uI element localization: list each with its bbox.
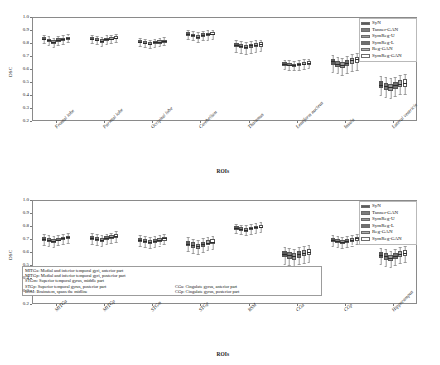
box-plot	[345, 183, 349, 365]
cap-lower	[336, 247, 339, 248]
median-line	[186, 244, 190, 245]
cap-upper	[336, 236, 339, 237]
cap-upper	[245, 42, 248, 43]
median-line	[196, 37, 200, 38]
cap-lower	[153, 247, 156, 248]
cap-lower	[331, 246, 334, 247]
cap-lower	[298, 264, 301, 265]
cap-upper	[389, 251, 392, 252]
cap-lower	[43, 245, 46, 246]
box-plot	[403, 183, 407, 365]
cap-upper	[202, 31, 205, 32]
cap-upper	[379, 248, 382, 249]
median-line	[186, 34, 190, 35]
box-plot	[297, 0, 301, 182]
cap-upper	[52, 38, 55, 39]
median-line	[355, 238, 359, 239]
y-axis-tick-mark	[30, 30, 32, 31]
cap-lower	[307, 262, 310, 263]
cap-lower	[105, 244, 108, 245]
box-plot	[114, 0, 118, 182]
median-line	[393, 85, 397, 86]
cap-lower	[144, 247, 147, 248]
cap-lower	[307, 68, 310, 69]
box-plot	[297, 183, 301, 365]
cap-lower	[206, 250, 209, 251]
box-plot	[259, 183, 263, 365]
median-line	[307, 252, 311, 253]
median-line	[157, 42, 161, 43]
x-axis-label-bottom: ROIs	[217, 351, 230, 357]
box-plot	[138, 0, 142, 182]
cap-upper	[399, 75, 402, 76]
cap-lower	[139, 246, 142, 247]
box-plot	[355, 0, 359, 182]
cap-lower	[283, 69, 286, 70]
cap-lower	[100, 46, 103, 47]
y-axis-tick-label: 0.9	[14, 210, 29, 215]
median-line	[249, 228, 253, 229]
box-plot	[100, 183, 104, 365]
box-plot	[249, 0, 253, 182]
cap-upper	[240, 41, 243, 42]
cap-upper	[293, 249, 296, 250]
median-line	[148, 44, 152, 45]
whisker-lower	[390, 91, 391, 98]
cap-upper	[67, 233, 70, 234]
box-plot	[201, 183, 205, 365]
cap-upper	[206, 30, 209, 31]
whisker-lower	[395, 89, 396, 96]
median-line	[109, 39, 113, 40]
median-line	[345, 241, 349, 242]
box-plot	[234, 0, 238, 182]
cap-lower	[96, 44, 99, 45]
median-line	[244, 47, 248, 48]
cap-upper	[351, 235, 354, 236]
box-plot	[335, 0, 339, 182]
cap-lower	[96, 245, 99, 246]
median-line	[47, 40, 51, 41]
legend-swatch	[361, 211, 370, 215]
y-axis-tick-mark	[30, 265, 32, 266]
cap-upper	[404, 246, 407, 247]
box-plot	[307, 0, 311, 182]
cap-upper	[149, 40, 152, 41]
box-plot	[51, 183, 55, 365]
cap-upper	[379, 76, 382, 77]
median-line	[138, 240, 142, 241]
box-plot	[143, 183, 147, 365]
box-plot	[388, 0, 392, 182]
box-plot	[61, 0, 65, 182]
legend-swatch	[361, 41, 370, 45]
cap-lower	[43, 43, 46, 44]
box-plot	[239, 183, 243, 365]
y-axis-tick-mark	[30, 239, 32, 240]
cap-lower	[192, 40, 195, 41]
box-plot	[388, 183, 392, 365]
box-plot	[148, 0, 152, 182]
cap-lower	[298, 70, 301, 71]
cap-upper	[57, 235, 60, 236]
cap-lower	[105, 44, 108, 45]
cap-upper	[303, 246, 306, 247]
cap-lower	[211, 39, 214, 40]
whisker-lower	[357, 63, 358, 70]
cap-lower	[384, 97, 387, 98]
cap-lower	[144, 47, 147, 48]
legend-swatch	[361, 22, 370, 26]
box-plot	[282, 0, 286, 182]
cap-upper	[62, 35, 65, 36]
cap-upper	[293, 61, 296, 62]
y-axis-tick-label: 0.3	[14, 288, 29, 293]
median-line	[143, 241, 147, 242]
cap-upper	[235, 224, 238, 225]
box-plot	[403, 0, 407, 182]
cap-upper	[57, 36, 60, 37]
cap-lower	[351, 246, 354, 247]
box-plot	[384, 183, 388, 365]
median-line	[206, 243, 210, 244]
cap-lower	[163, 45, 166, 46]
whisker-lower	[347, 66, 348, 73]
median-line	[143, 43, 147, 44]
median-line	[384, 86, 388, 87]
